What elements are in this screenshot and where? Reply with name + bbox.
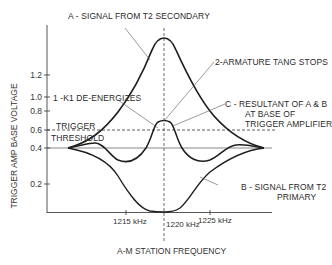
trigger-label: TRIGGER xyxy=(56,122,95,131)
x-tick-1215: 1215 kHz xyxy=(113,218,147,226)
annotation-a: A - SIGNAL FROM T2 SECONDARY xyxy=(68,12,210,21)
x-tick-1225: 1225 kHz xyxy=(198,217,232,225)
annotation-tang: 2-ARMATURE TANG STOPS xyxy=(215,58,328,67)
x-tick-1220: 1220 kHz xyxy=(166,221,200,229)
y-tick-1.0: 1.0 xyxy=(20,93,42,102)
y-axis-label: TRIGGER AMP BASE VOLTAGE xyxy=(9,83,19,208)
y-tick-0.8: 0.8 xyxy=(20,107,42,116)
annotation-c-line2: AT BASE OF xyxy=(245,110,295,119)
y-tick-0.6: 0.6 xyxy=(20,126,42,135)
annotation-b-line2: PRIMARY xyxy=(277,193,316,202)
y-tick-1.2: 1.2 xyxy=(20,71,42,80)
curve-b xyxy=(68,148,264,212)
y-tick-0.2: 0.2 xyxy=(20,180,42,189)
annotation-b-line1: B - SIGNAL FROM T2 xyxy=(241,183,326,192)
threshold-label: THRESHOLD xyxy=(51,134,104,143)
annotation-k1: 1 -K1 DE-ENERGIZES xyxy=(53,94,141,103)
annotation-c-line1: C - RESULTANT OF A & B xyxy=(225,100,327,109)
x-axis-label: A-M STATION FREQUENCY xyxy=(117,246,226,256)
y-tick-0.4: 0.4 xyxy=(20,144,42,153)
annotation-c-line3: TRIGGER AMPLIFIER xyxy=(245,120,332,129)
leader-lines xyxy=(118,28,225,185)
